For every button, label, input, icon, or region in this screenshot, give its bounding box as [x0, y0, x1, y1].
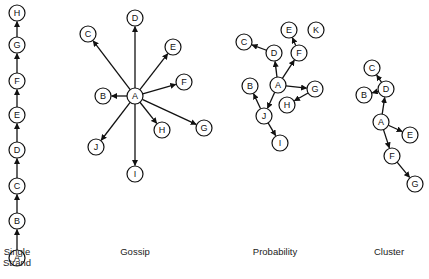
probability-node-I: I: [272, 135, 288, 151]
node-label: E: [407, 130, 413, 140]
node-label: A: [378, 117, 384, 127]
node-label: H: [284, 100, 291, 110]
cluster-node-F: F: [384, 148, 400, 164]
single-node-G: G: [9, 37, 25, 53]
cluster-node-D: D: [378, 81, 394, 97]
probability-edge-A-to-F: [282, 60, 294, 78]
node-label: C: [241, 37, 248, 47]
node-label: E: [14, 110, 20, 120]
probability-node-C: C: [236, 34, 252, 50]
probability-node-B: B: [242, 78, 258, 94]
probability-edge-A-to-J: [267, 92, 274, 108]
node-label: E: [170, 42, 176, 52]
probability-edge-A-to-D: [275, 61, 277, 77]
node-label: D: [14, 145, 21, 155]
edges-layer: [17, 22, 410, 251]
network-diagrams-canvas: ABCDEFGHABCDEFGHIJABCDEFGHIJKABCDEFG: [0, 0, 429, 279]
gossip-node-G: G: [196, 120, 212, 136]
single-node-E: E: [9, 107, 25, 123]
node-label: B: [100, 91, 106, 101]
probability-edge-J-to-I: [268, 123, 276, 136]
cluster-node-A: A: [373, 114, 389, 130]
probability-node-F: F: [291, 45, 307, 61]
node-label: G: [200, 123, 207, 133]
probability-edge-F-to-E: [292, 38, 295, 46]
node-label: C: [14, 181, 21, 191]
gossip-node-A: A: [127, 88, 143, 104]
probability-node-H: H: [279, 97, 295, 113]
single-node-D: D: [9, 142, 25, 158]
gossip-node-C: C: [80, 26, 96, 42]
gossip-edge-A-to-J: [101, 102, 130, 140]
node-label: F: [14, 76, 20, 86]
cluster-edge-D-to-C: [377, 75, 382, 82]
cluster-edge-A-to-F: [383, 130, 389, 148]
node-label: I: [279, 138, 282, 148]
single-node-C: C: [9, 178, 25, 194]
probability-node-K: K: [308, 22, 324, 38]
gossip-node-I: I: [127, 166, 143, 182]
node-label: C: [369, 63, 376, 73]
probability-node-A: A: [270, 77, 286, 93]
node-label: H: [14, 8, 21, 18]
gossip-node-F: F: [176, 74, 192, 90]
label-single-strand-line2: Strand: [0, 257, 36, 268]
cluster-node-G: G: [407, 176, 423, 192]
gossip-edge-A-to-F: [143, 84, 176, 93]
node-label: B: [14, 216, 20, 226]
node-label: D: [383, 84, 390, 94]
node-label: F: [296, 48, 302, 58]
node-label: G: [311, 84, 318, 94]
label-single-strand-line1: Single: [0, 246, 36, 257]
probability-node-D: D: [266, 45, 282, 61]
single-node-H: H: [9, 5, 25, 21]
node-label: C: [85, 29, 92, 39]
node-label: B: [361, 90, 367, 100]
cluster-node-C: C: [364, 60, 380, 76]
single-node-F: F: [9, 73, 25, 89]
single-node-B: B: [9, 213, 25, 229]
node-label: G: [13, 40, 20, 50]
label-single-strand: Single Strand: [0, 246, 36, 268]
probability-node-G: G: [307, 81, 323, 97]
node-label: H: [159, 125, 166, 135]
cluster-node-E: E: [402, 127, 418, 143]
probability-edge-G-to-H: [294, 93, 308, 101]
probability-node-J: J: [256, 108, 272, 124]
cluster-edge-D-to-B: [372, 91, 378, 93]
node-label: K: [313, 25, 319, 35]
node-label: I: [134, 169, 137, 179]
nodes-layer: ABCDEFGHABCDEFGHIJABCDEFGHIJKABCDEFG: [9, 5, 423, 266]
gossip-edge-A-to-G: [142, 99, 196, 124]
probability-edge-J-to-B: [254, 94, 261, 109]
node-label: A: [132, 91, 138, 101]
cluster-node-B: B: [356, 87, 372, 103]
node-label: G: [411, 179, 418, 189]
gossip-edge-A-to-C: [93, 41, 130, 90]
node-label: F: [181, 77, 187, 87]
node-label: D: [132, 13, 139, 23]
label-gossip: Gossip: [110, 246, 160, 257]
node-label: B: [247, 81, 253, 91]
cluster-edge-A-to-E: [388, 125, 402, 131]
gossip-node-J: J: [88, 139, 104, 155]
node-label: J: [94, 142, 99, 152]
probability-edge-A-to-G: [286, 86, 307, 88]
gossip-node-H: H: [154, 122, 170, 138]
node-label: A: [275, 80, 281, 90]
gossip-node-B: B: [95, 88, 111, 104]
cluster-edge-F-to-G: [397, 162, 410, 177]
label-probability: Probability: [240, 246, 310, 257]
node-label: D: [271, 48, 278, 58]
cluster-edge-A-to-D: [382, 97, 385, 114]
gossip-node-E: E: [165, 39, 181, 55]
probability-edge-D-to-C: [252, 45, 267, 50]
gossip-edge-A-to-E: [140, 54, 168, 90]
node-label: J: [262, 111, 267, 121]
probability-node-E: E: [281, 22, 297, 38]
node-label: F: [389, 151, 395, 161]
gossip-node-D: D: [127, 10, 143, 26]
node-label: E: [286, 25, 292, 35]
label-cluster: Cluster: [364, 246, 414, 257]
